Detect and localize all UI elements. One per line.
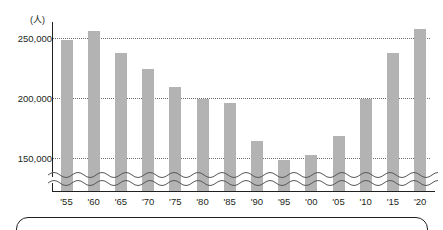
x-tick-label: '80 [189, 196, 217, 207]
x-tick-label: '55 [53, 196, 81, 207]
x-tick-label: '85 [216, 196, 244, 207]
x-tick-label: '70 [134, 196, 162, 207]
x-tick-label: '20 [406, 196, 434, 207]
y-tick-200000: 200,000 [0, 93, 52, 105]
y-tick-label: 150,000 [4, 153, 52, 164]
y-axis-line [52, 22, 53, 177]
bar-chart-plot: (人) 250,000 200,000 150,000 '55'60' [0, 0, 443, 200]
x-axis-line [52, 191, 435, 192]
bar-20 [414, 29, 426, 191]
gridline-150000 [53, 158, 430, 159]
bar-55 [61, 40, 73, 191]
y-axis-unit-label: (人) [30, 13, 45, 26]
y-tick-label: 200,000 [4, 93, 52, 104]
x-tick-label: '95 [270, 196, 298, 207]
y-tick-label: 250,000 [4, 33, 52, 44]
y-tick-250000: 250,000 [0, 33, 52, 45]
x-tick-label: '90 [243, 196, 271, 207]
x-tick-label: '05 [325, 196, 353, 207]
chart-screenshot: (人) 250,000 200,000 150,000 '55'60' [0, 0, 443, 230]
x-tick-label: '60 [80, 196, 108, 207]
bar-60 [88, 31, 100, 191]
x-tick-label: '15 [379, 196, 407, 207]
y-tick-150000: 150,000 [0, 153, 52, 165]
gridline-200000 [53, 98, 430, 99]
x-tick-label: '00 [297, 196, 325, 207]
x-tick-label: '65 [107, 196, 135, 207]
x-tick-label: '75 [161, 196, 189, 207]
axis-break-wave [48, 170, 438, 186]
caption-frame [16, 217, 428, 230]
gridline-250000 [53, 38, 430, 39]
x-tick-label: '10 [352, 196, 380, 207]
